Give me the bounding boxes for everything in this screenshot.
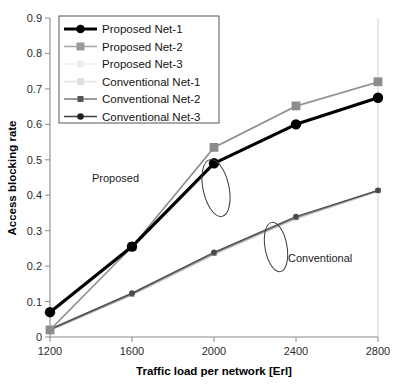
legend-label: Conventional Net-2 [102, 93, 200, 105]
y-tick-label: 0.3 [27, 225, 42, 237]
y-tick-label: 0.2 [27, 260, 42, 272]
data-point [46, 326, 55, 335]
legend-marker-square [77, 61, 84, 68]
x-tick-label: 1600 [120, 345, 144, 357]
legend-label: Proposed Net-2 [102, 41, 183, 53]
data-point [292, 102, 301, 111]
legend-label: Proposed Net-3 [102, 58, 183, 70]
legend-label: Proposed Net-1 [102, 23, 183, 35]
line-chart: 0.9 0.8 0.7 0.6 0.5 0.4 0.3 0.2 0.1 0 12… [0, 0, 412, 390]
y-tick-label: 0 [36, 331, 42, 343]
annotation-conventional: Conventional [288, 252, 352, 264]
y-tick-label: 0.4 [27, 189, 42, 201]
y-tick-label: 0.6 [27, 118, 42, 130]
data-point [127, 241, 137, 251]
y-tick-labels: 0.9 0.8 0.7 0.6 0.5 0.4 0.3 0.2 0.1 0 [27, 12, 42, 343]
data-point [210, 143, 219, 152]
chart-container: 0.9 0.8 0.7 0.6 0.5 0.4 0.3 0.2 0.1 0 12… [0, 0, 412, 390]
data-point [129, 290, 135, 296]
data-point [45, 307, 55, 317]
conventional-highlight-ellipse [261, 220, 291, 273]
legend-marker-square [78, 96, 84, 102]
data-point [375, 187, 381, 193]
x-tick-labels: 1200 1600 2000 2400 2800 [38, 345, 390, 357]
y-tick-label: 0.5 [27, 154, 42, 166]
legend-marker-circle [77, 113, 84, 120]
y-axis-title: Access blocking rate [6, 120, 18, 235]
legend: Proposed Net-1 Proposed Net-2 Proposed N… [59, 16, 219, 123]
data-point [291, 119, 301, 129]
y-tick-marks [45, 18, 50, 337]
x-axis-title: Traffic load per network [Erl] [136, 365, 292, 377]
annotation-proposed: Proposed [92, 172, 139, 184]
legend-marker-square [77, 78, 84, 85]
x-tick-label: 2800 [366, 345, 390, 357]
legend-label: Conventional Net-1 [102, 76, 200, 88]
x-tick-label: 2000 [202, 345, 226, 357]
y-tick-label: 0.7 [27, 83, 42, 95]
legend-label: Conventional Net-3 [102, 111, 200, 123]
legend-marker-circle [76, 25, 85, 34]
data-point [211, 249, 217, 255]
y-tick-label: 0.9 [27, 12, 42, 24]
data-point [293, 214, 299, 220]
x-tick-marks [50, 337, 378, 342]
legend-marker-square [77, 43, 85, 51]
x-tick-label: 1200 [38, 345, 62, 357]
y-tick-label: 0.8 [27, 47, 42, 59]
y-tick-label: 0.1 [27, 296, 42, 308]
data-point [374, 77, 383, 86]
x-tick-label: 2400 [284, 345, 308, 357]
data-point [373, 93, 383, 103]
